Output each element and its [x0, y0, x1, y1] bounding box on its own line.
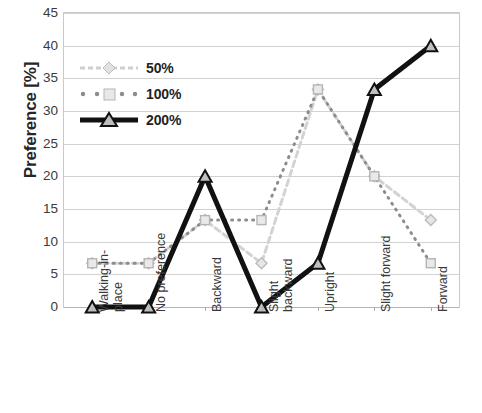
legend-key-200 — [78, 111, 140, 129]
y-tick-label: 15 — [32, 202, 58, 216]
y-tick-label: 20 — [32, 169, 58, 183]
x-tick-label: Walking-in- place — [97, 216, 125, 312]
legend-item: 50% — [78, 55, 181, 81]
x-tick-label: Backward — [210, 216, 224, 312]
legend-label-200: 200% — [146, 112, 181, 128]
legend-item: 100% — [78, 81, 181, 107]
x-tick-label: Slight forward — [379, 216, 393, 312]
x-tick-label: Slight backward — [267, 216, 295, 312]
x-tickmark — [262, 307, 263, 311]
x-tick-label: Forward — [436, 216, 450, 312]
chart-legend: 50% 100% 200% — [78, 55, 181, 133]
data-point — [201, 216, 210, 225]
data-point — [426, 259, 435, 268]
x-tickmark — [374, 307, 375, 311]
data-point — [199, 170, 212, 182]
x-tick-label: No preference — [154, 216, 168, 312]
data-point — [313, 85, 322, 94]
y-tick-label: 35 — [32, 71, 58, 85]
y-tick-label: 25 — [32, 137, 58, 151]
data-point — [424, 40, 437, 52]
data-point — [144, 259, 153, 268]
legend-key-100 — [78, 85, 140, 103]
data-point — [257, 216, 266, 225]
legend-swatch-square-icon — [78, 85, 140, 103]
legend-item: 200% — [78, 107, 181, 133]
x-tickmark — [318, 307, 319, 311]
x-tickmark — [149, 307, 150, 311]
x-tickmark — [205, 307, 206, 311]
data-point — [88, 259, 97, 268]
y-tick-label: 0 — [32, 300, 58, 314]
x-tickmark — [431, 307, 432, 311]
legend-swatch-diamond-icon — [78, 59, 140, 77]
y-tick-label: 30 — [32, 104, 58, 118]
x-tick-label: Upright — [323, 216, 337, 312]
x-tickmark — [92, 307, 93, 311]
y-tick-label: 45 — [32, 6, 58, 20]
preference-line-chart: Preference [%] 454035302520151050 Walkin… — [0, 0, 482, 413]
legend-key-50 — [78, 59, 140, 77]
legend-label-100: 100% — [146, 86, 181, 102]
y-axis-tick-labels: 454035302520151050 — [30, 0, 58, 413]
y-tick-label: 5 — [32, 267, 58, 281]
data-point — [370, 172, 379, 181]
legend-swatch-triangle-icon — [78, 111, 140, 129]
y-tick-label: 10 — [32, 235, 58, 249]
y-tick-label: 40 — [32, 39, 58, 53]
legend-label-50: 50% — [146, 60, 174, 76]
